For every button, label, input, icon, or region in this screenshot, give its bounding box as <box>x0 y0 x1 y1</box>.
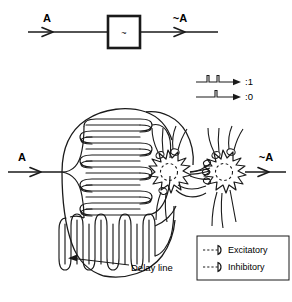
upper-delay-coil <box>80 119 152 216</box>
neural-inverter-figure: ~ A ~A :1 :0 A <box>0 0 292 302</box>
pulse-legend-label-0: :0 <box>245 91 253 102</box>
synapse-legend-label-inhibitory: Inhibitory <box>228 262 265 272</box>
pulse-train-two-icon <box>196 76 241 86</box>
pulse-legend-label-1: :1 <box>245 76 253 87</box>
neuron-right <box>202 126 286 228</box>
network-output-label: ~A <box>259 151 273 163</box>
synapse-legend-label-excitatory: Excitatory <box>228 245 268 255</box>
upper-coil-exit <box>146 176 170 215</box>
delay-line-label: Delay line <box>131 262 173 273</box>
excitatory-synapse-icon <box>203 246 221 255</box>
synapse-legend: Excitatory Inhibitory <box>197 236 289 280</box>
inhibitory-synapse-icon <box>158 186 168 195</box>
leader-arrow-icon <box>68 255 77 262</box>
nucleus <box>161 164 178 181</box>
inhibitory-synapse-icon <box>203 263 221 272</box>
top-input-label: A <box>43 12 51 24</box>
pulse-train-one-icon <box>196 91 241 101</box>
top-output-label: ~A <box>173 12 187 24</box>
network-input-label: A <box>18 151 26 163</box>
nucleus <box>216 164 233 181</box>
top-block-diagram: ~ A ~A <box>28 12 218 48</box>
inverter-box-symbol: ~ <box>121 28 126 38</box>
pulse-legend: :1 :0 <box>196 76 253 103</box>
neuron-left <box>149 126 210 222</box>
synapse-legend-box <box>197 236 289 280</box>
leader-line <box>70 258 129 265</box>
